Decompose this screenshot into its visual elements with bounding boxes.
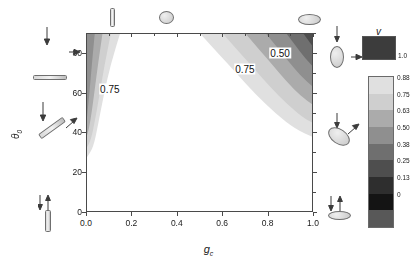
x-tick-top [86, 33, 87, 37]
x-tick-label: 0.2 [125, 218, 137, 228]
x-axis-title-sub: c [210, 250, 214, 257]
tilted-rod-arrows-icon [27, 102, 82, 158]
colorbar-band [369, 177, 393, 194]
y-axis-title-text: θ [10, 134, 21, 139]
x-tick-label: 0.0 [80, 218, 92, 228]
y-tick [82, 53, 86, 54]
y-minor-tick [313, 152, 316, 153]
x-tick [86, 212, 87, 216]
colorbar-tick-label: 0.63 [397, 107, 410, 114]
y-axis-title: θ0 [10, 105, 23, 165]
x-tick-top [268, 33, 269, 37]
colorbar-band [369, 144, 393, 161]
x-tick-top [222, 33, 223, 37]
y-tick-right [313, 93, 317, 94]
colorbar-tick-label: 0.50 [397, 124, 410, 131]
tilted-ellipse-arrows-icon [326, 113, 370, 157]
y-axis-title-sub: 0 [16, 130, 23, 134]
colorbar-tick-label: 0.38 [397, 140, 410, 147]
colorbar-band [369, 194, 393, 211]
y-tick-label: 60 [56, 88, 82, 98]
y-tick-label: 20 [56, 167, 82, 177]
vertical-ellipse-arrows-icon [327, 26, 369, 74]
contour-label: 0.50 [269, 47, 290, 58]
horizontal-rod-arrows-icon [25, 26, 80, 66]
x-tick-label: 0.6 [216, 218, 228, 228]
x-tick-label: 0.4 [171, 218, 183, 228]
colorbar-band [369, 94, 393, 111]
colorbar-tick-label: 0.75 [397, 90, 410, 97]
y-tick [82, 93, 86, 94]
y-tick-right [313, 172, 317, 173]
x-tick-top [177, 33, 178, 37]
colorbar-top-label: 1.0 [398, 52, 407, 59]
x-minor-tick [109, 33, 110, 36]
colorbar-tick-label: 0 [397, 190, 401, 197]
x-tick [131, 212, 132, 216]
x-tick [222, 212, 223, 216]
x-tick [177, 212, 178, 216]
plot-area [86, 33, 313, 212]
flat-ellipse-arrows-icon [328, 195, 354, 221]
x-minor-tick [154, 33, 155, 36]
y-minor-tick [313, 113, 316, 114]
colorbar-band [369, 160, 393, 177]
y-tick-right [313, 212, 317, 213]
x-tick-label: 0.8 [262, 218, 274, 228]
colorbar-tick-label: 0.25 [397, 157, 410, 164]
colorbar-tick-label: 0.13 [397, 174, 410, 181]
x-minor-tick [200, 33, 201, 36]
colorbar-band [369, 210, 393, 227]
y-tick [82, 172, 86, 173]
vertical-rod-arrows-icon [38, 194, 62, 222]
colorbar [368, 76, 394, 228]
colorbar-band [369, 110, 393, 127]
x-tick-top [131, 33, 132, 37]
colorbar-band [369, 77, 393, 94]
y-tick [82, 212, 86, 213]
y-tick-right [313, 53, 317, 54]
y-tick [82, 132, 86, 133]
contour-label: 0.75 [99, 83, 120, 94]
x-tick-label: 1.0 [307, 218, 319, 228]
x-axis-title: gc [0, 243, 417, 257]
x-minor-tick [245, 33, 246, 36]
colorbar-tick-label: 0.88 [397, 74, 410, 81]
x-tick [268, 212, 269, 216]
y-minor-tick [313, 192, 316, 193]
contour-label: 0.75 [234, 63, 255, 74]
colorbar-band [369, 127, 393, 144]
y-minor-tick [313, 73, 316, 74]
y-minor-tick [313, 33, 316, 34]
x-minor-tick [290, 33, 291, 36]
contour-field [87, 34, 313, 212]
y-tick-right [313, 132, 317, 133]
contour-figure: 0.00.20.40.60.81.0 020406080 0.750.750.5… [0, 0, 417, 270]
